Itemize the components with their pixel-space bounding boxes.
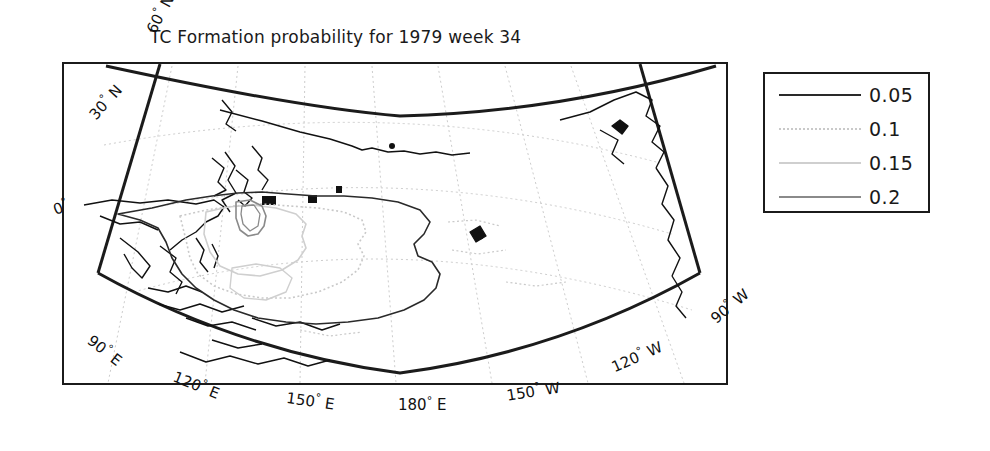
lon-label-150E: 150° E xyxy=(285,387,336,414)
figure-canvas: TC Formation probability for 1979 week 3… xyxy=(0,0,990,451)
legend-line-015 xyxy=(779,162,861,164)
legend-label-005: 0.05 xyxy=(869,82,913,108)
page-title: TC Formation probability for 1979 week 3… xyxy=(150,27,521,47)
legend-line-02 xyxy=(779,196,861,198)
legend-label-02: 0.2 xyxy=(869,184,901,210)
legend-line-005 xyxy=(779,94,861,96)
legend-row: 0.15 xyxy=(765,148,932,178)
map-axes-frame xyxy=(62,62,728,385)
legend-row: 0.05 xyxy=(765,80,932,110)
legend-row: 0.1 xyxy=(765,114,932,144)
lon-label-180E: 180° E xyxy=(398,394,446,414)
legend-label-015: 0.15 xyxy=(869,150,913,176)
contour-legend: 0.05 0.1 0.15 0.2 xyxy=(763,72,930,213)
legend-line-01 xyxy=(779,128,861,130)
legend-label-01: 0.1 xyxy=(869,116,901,142)
legend-row: 0.2 xyxy=(765,182,932,212)
